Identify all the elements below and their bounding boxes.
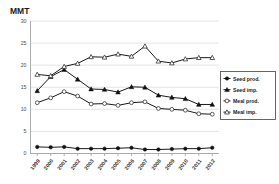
data-point-marker [116, 146, 120, 150]
data-point-marker [76, 94, 80, 98]
data-point-marker [62, 145, 66, 149]
data-point-marker [49, 146, 53, 150]
data-point-marker [197, 147, 201, 151]
data-point-marker [89, 102, 93, 106]
data-point-marker [170, 147, 174, 151]
chart-legend: Seed prod.Seed imp.Meal prod.Meal imp. [221, 72, 276, 120]
data-point-marker [143, 100, 147, 104]
data-point-marker [62, 90, 66, 94]
data-point-marker [35, 145, 39, 149]
data-point-marker [116, 103, 120, 107]
data-point-marker [76, 147, 80, 151]
chart-container: MMT 051015202530 19992000200120022003200… [0, 0, 279, 184]
data-point-marker [89, 147, 93, 151]
legend-label[interactable]: Seed prod. [233, 76, 260, 82]
data-point-marker [130, 146, 134, 150]
y-tick-label: 0 [24, 150, 27, 156]
data-point-marker [157, 148, 161, 152]
data-point-marker [103, 147, 107, 151]
y-tick-label: 15 [21, 84, 27, 90]
y-tick-label: 10 [21, 106, 27, 112]
data-point-marker [170, 107, 174, 111]
data-point-marker [183, 108, 187, 112]
data-point-marker [35, 101, 39, 105]
data-point-marker [197, 112, 201, 116]
legend-label[interactable]: Meal imp. [233, 109, 257, 115]
data-point-marker [211, 146, 215, 150]
data-point-marker [103, 102, 107, 106]
data-point-marker [49, 96, 53, 100]
data-point-marker [157, 107, 161, 111]
line-chart: MMT 051015202530 19992000200120022003200… [0, 0, 279, 184]
y-axis-title: MMT [10, 6, 30, 16]
data-point-marker [184, 147, 188, 151]
legend-label[interactable]: Seed imp. [233, 87, 258, 93]
y-tick-label: 30 [21, 18, 27, 24]
data-point-marker [210, 112, 214, 116]
data-point-marker [225, 99, 229, 103]
data-point-marker [130, 101, 134, 105]
data-point-marker [225, 77, 229, 81]
y-tick-label: 25 [21, 40, 27, 46]
y-tick-label: 5 [24, 128, 27, 134]
legend-label[interactable]: Meal prod. [233, 98, 259, 104]
y-tick-label: 20 [21, 62, 27, 68]
data-point-marker [143, 148, 147, 152]
